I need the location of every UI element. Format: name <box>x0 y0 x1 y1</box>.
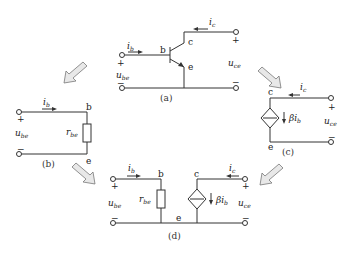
current-arrow-icon <box>136 174 141 178</box>
minus-sign: − <box>117 78 125 88</box>
minus-sign: − <box>242 213 250 223</box>
terminal-icon <box>234 30 239 35</box>
flow-arrow-b-to-d-icon <box>72 163 95 184</box>
resistor-rbe <box>157 190 165 208</box>
current-arrow-icon <box>138 50 143 54</box>
uce-label: uce <box>228 58 241 69</box>
minus-sign: − <box>111 213 119 223</box>
panel-c-output-equivalent: ic c e βib + uce − (c) <box>261 82 337 157</box>
plus-sign: + <box>232 35 240 45</box>
down-arrow-icon <box>209 200 213 205</box>
down-arrow-icon <box>282 119 286 124</box>
plus-sign: + <box>17 114 25 124</box>
minus-sign: − <box>232 77 240 87</box>
flow-arrow-a-to-c-icon <box>258 67 281 88</box>
source-label: βib <box>288 113 301 124</box>
collector-label: c <box>194 169 199 179</box>
diagram-canvas: ib ic b c e + ube − + uce − (a) ib b e r… <box>0 0 350 256</box>
plus-sign: + <box>328 102 336 112</box>
caption-a: (a) <box>160 93 172 103</box>
terminal-icon <box>329 96 334 101</box>
emitter-label: e <box>86 156 91 166</box>
plus-sign: + <box>242 181 250 191</box>
terminal-icon <box>120 53 125 58</box>
caption-b: (b) <box>42 159 55 169</box>
minus-sign: − <box>328 132 336 142</box>
resistor-rbe <box>83 124 91 142</box>
uce-label: uce <box>324 116 337 127</box>
minus-sign: − <box>17 144 25 154</box>
ib-label: ib <box>43 97 50 108</box>
panel-d-full-equivalent: ib ic b c e rbe βib + ube − + uce − (d) <box>108 163 251 241</box>
current-arrow-icon <box>52 107 57 111</box>
collector-label: c <box>188 37 193 47</box>
ube-label: ube <box>108 198 122 209</box>
ic-label: ic <box>229 163 236 174</box>
flow-arrow-a-to-b-icon <box>64 62 87 83</box>
base-label: b <box>86 102 92 112</box>
base-label: b <box>160 45 166 55</box>
caption-d: (d) <box>168 231 181 241</box>
collector-label: c <box>268 87 273 97</box>
emitter-label: e <box>176 213 181 223</box>
ube-label: ube <box>15 128 29 139</box>
current-arrow-icon <box>226 174 231 178</box>
caption-c: (c) <box>282 147 294 157</box>
bjt-small-signal-model-diagram: ib ic b c e + ube − + uce − (a) ib b e r… <box>0 0 350 256</box>
flow-arrow-c-to-d-icon <box>260 164 283 185</box>
ib-label: ib <box>128 163 135 174</box>
rbe-label: rbe <box>139 194 151 205</box>
ic-label: ic <box>300 82 307 93</box>
panel-b-input-equivalent: ib b e rbe + ube − (b) <box>15 97 92 169</box>
plus-sign: + <box>117 58 125 68</box>
uce-label: uce <box>238 198 251 209</box>
current-arrow-icon <box>193 27 198 31</box>
panel-a-transistor-circuit: ib ic b c e + ube − + uce − (a) <box>116 17 241 103</box>
plus-sign: + <box>111 181 119 191</box>
emitter-label: e <box>188 62 193 72</box>
source-label: βib <box>215 195 228 206</box>
ic-label: ic <box>209 17 216 28</box>
ib-label: ib <box>127 41 134 52</box>
emitter-label: e <box>268 142 273 152</box>
current-arrow-icon <box>288 93 293 97</box>
rbe-label: rbe <box>66 127 78 138</box>
base-label: b <box>158 169 164 179</box>
